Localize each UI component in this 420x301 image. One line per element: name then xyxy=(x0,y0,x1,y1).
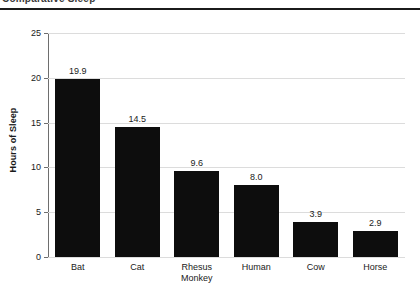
page-title: Comparative Sleep xyxy=(0,0,420,5)
x-tick-label: Cat xyxy=(108,262,168,273)
y-tick-label: 20 xyxy=(31,73,41,83)
gridline: 10 xyxy=(48,167,405,168)
bar-value-label: 3.9 xyxy=(309,209,322,219)
y-axis-label: Hours of Sleep xyxy=(8,94,18,186)
y-tick-mark xyxy=(44,212,48,213)
gridline: 5 xyxy=(48,212,405,213)
bar-value-label: 14.5 xyxy=(128,114,146,124)
bar-chart-figure: Hours of Sleep 0510152025 19.914.59.68.0… xyxy=(0,11,420,301)
y-tick-mark xyxy=(44,123,48,124)
y-tick-mark xyxy=(44,33,48,34)
plot-area: 0510152025 19.914.59.68.03.92.9 xyxy=(48,33,405,257)
gridline: 15 xyxy=(48,123,405,124)
bar-value-label: 2.9 xyxy=(369,218,382,228)
bar-value-label: 8.0 xyxy=(250,172,263,182)
x-tick-label: Rhesus Monkey xyxy=(167,262,227,284)
gridline: 25 xyxy=(48,33,405,34)
y-tick-label: 10 xyxy=(31,162,41,172)
y-tick-mark xyxy=(44,257,48,258)
x-tick-label: Bat xyxy=(48,262,108,273)
y-tick-label: 25 xyxy=(31,28,41,38)
cut-off-title-strip: Comparative Sleep xyxy=(0,0,420,7)
bar-value-label: 19.9 xyxy=(69,66,87,76)
x-tick-label: Horse xyxy=(346,262,406,273)
y-tick-mark xyxy=(44,78,48,79)
bar-value-label: 9.6 xyxy=(190,158,203,168)
x-tick-label: Human xyxy=(227,262,287,273)
gridline: 0 xyxy=(48,257,405,258)
y-tick-label: 0 xyxy=(36,252,41,262)
bar[interactable]: 2.9 xyxy=(353,231,398,257)
bar[interactable]: 14.5 xyxy=(115,127,160,257)
x-tick-label: Cow xyxy=(286,262,346,273)
bar[interactable]: 8.0 xyxy=(234,185,279,257)
y-tick-mark xyxy=(44,167,48,168)
gridline: 20 xyxy=(48,78,405,79)
header-divider xyxy=(0,8,420,10)
y-tick-label: 15 xyxy=(31,118,41,128)
bar[interactable]: 3.9 xyxy=(293,222,338,257)
bar[interactable]: 19.9 xyxy=(55,79,100,257)
bar[interactable]: 9.6 xyxy=(174,171,219,257)
y-tick-label: 5 xyxy=(36,207,41,217)
